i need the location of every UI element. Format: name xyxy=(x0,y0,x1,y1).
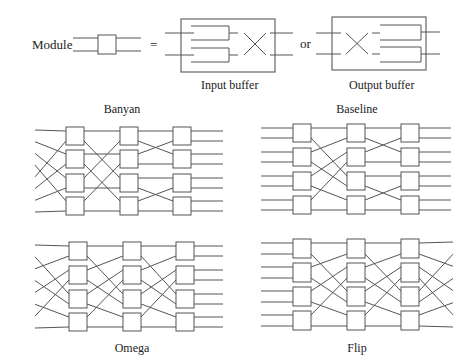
input-line xyxy=(35,142,66,154)
link-line xyxy=(311,162,347,186)
switch-module xyxy=(176,290,194,308)
link-line xyxy=(311,186,347,200)
link-line xyxy=(141,270,176,294)
link-line xyxy=(365,278,401,302)
link-line xyxy=(365,302,401,315)
switch-module xyxy=(66,127,84,145)
link-line xyxy=(87,256,123,270)
link-line xyxy=(311,302,347,315)
output-line xyxy=(419,326,453,327)
link-line xyxy=(87,256,123,294)
switch-module xyxy=(120,174,138,192)
switch-module xyxy=(176,242,194,260)
input-buffer-label: Input buffer xyxy=(201,78,258,92)
link-line xyxy=(141,280,176,304)
input-line xyxy=(35,327,69,328)
link-line xyxy=(87,270,123,294)
module-label: Module xyxy=(32,37,73,52)
switch-module xyxy=(401,172,419,190)
switch-module xyxy=(401,196,419,214)
switch-module xyxy=(293,239,311,258)
link-line xyxy=(141,256,176,294)
omega-title: Omega xyxy=(115,341,150,355)
link-line xyxy=(311,278,347,302)
link-line xyxy=(87,280,123,317)
link-line xyxy=(311,254,347,267)
output-line xyxy=(419,267,453,291)
switch-module xyxy=(347,148,365,166)
switch-module xyxy=(173,150,191,168)
link-line xyxy=(141,280,176,317)
link-line xyxy=(141,256,176,270)
switch-module xyxy=(347,124,365,142)
omega-network xyxy=(35,242,223,331)
link-line xyxy=(365,267,401,291)
switch-module xyxy=(176,313,194,331)
link-line xyxy=(311,267,347,291)
switch-module xyxy=(347,263,365,282)
switch-module xyxy=(123,242,141,260)
link-line xyxy=(311,162,347,200)
link-line xyxy=(365,278,401,315)
equals-sign: = xyxy=(150,37,157,52)
switch-module xyxy=(347,287,365,306)
link-line xyxy=(311,278,347,315)
link-line xyxy=(365,254,401,291)
input-line xyxy=(35,188,66,200)
link-line xyxy=(87,304,123,317)
link-line xyxy=(311,152,347,176)
switch-module xyxy=(401,287,419,306)
switch-module xyxy=(401,124,419,142)
switch-module xyxy=(69,266,87,284)
switch-module xyxy=(66,150,84,168)
baseline-title: Baseline xyxy=(336,102,377,116)
switch-module xyxy=(69,290,87,308)
input-line xyxy=(35,281,69,304)
switch-module xyxy=(401,148,419,166)
input-line xyxy=(35,141,66,177)
module-legend: Module = Input buffer or xyxy=(32,17,440,92)
switch-module xyxy=(293,172,311,190)
switch-module xyxy=(293,148,311,166)
module-symbol xyxy=(73,35,141,54)
switch-module xyxy=(66,174,84,192)
switch-module xyxy=(293,124,311,142)
switch-module xyxy=(401,263,419,282)
switch-module xyxy=(120,150,138,168)
switch-module xyxy=(120,127,138,145)
switch-module xyxy=(173,127,191,145)
input-line xyxy=(35,165,66,201)
input-line xyxy=(35,130,66,131)
flip-network xyxy=(261,239,453,330)
link-line xyxy=(311,138,347,176)
switch-module xyxy=(173,197,191,215)
switch-module xyxy=(66,197,84,215)
link-line xyxy=(311,254,347,291)
baseline-network xyxy=(261,124,451,214)
link-line xyxy=(87,280,123,304)
switch-module xyxy=(120,197,138,215)
output-buffer-switch xyxy=(316,17,440,70)
output-buffer-label: Output buffer xyxy=(349,78,414,92)
switch-module xyxy=(176,266,194,284)
link-line xyxy=(141,304,176,317)
output-line xyxy=(419,242,453,243)
switch-module xyxy=(293,196,311,214)
switch-module xyxy=(293,311,311,330)
link-line xyxy=(365,254,401,267)
interconnection-network-diagram: Module = Input buffer or xyxy=(0,0,463,364)
input-line xyxy=(35,153,66,178)
flip-title: Flip xyxy=(347,341,366,355)
input-line xyxy=(35,164,66,189)
switch-module xyxy=(293,263,311,282)
switch-module xyxy=(69,313,87,331)
input-line xyxy=(35,245,69,246)
switch-module xyxy=(123,313,141,331)
switch-module xyxy=(347,172,365,190)
switch-module xyxy=(347,196,365,214)
switch-module xyxy=(123,266,141,284)
switch-module xyxy=(123,290,141,308)
or-label: or xyxy=(300,36,312,51)
link-line xyxy=(311,138,347,152)
input-buffer-switch xyxy=(165,19,293,72)
